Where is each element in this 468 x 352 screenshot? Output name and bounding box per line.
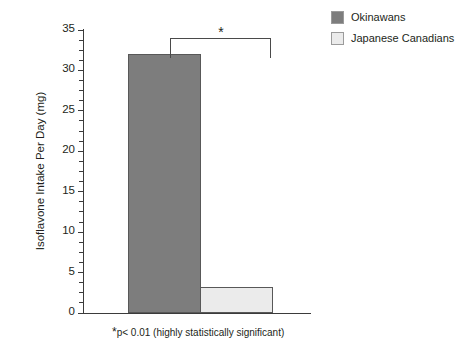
y-tick-major xyxy=(78,70,84,71)
y-tick-minor xyxy=(79,252,84,253)
y-tick-minor xyxy=(79,222,84,223)
y-tick-minor xyxy=(79,161,84,162)
y-tick-label: 30 xyxy=(41,62,75,74)
y-tick-minor xyxy=(79,80,84,81)
y-tick-minor xyxy=(79,181,84,182)
y-tick-minor xyxy=(79,262,84,263)
y-tick-major xyxy=(78,151,84,152)
y-tick-minor xyxy=(79,242,84,243)
significance-asterisk: * xyxy=(206,25,236,39)
y-tick-minor xyxy=(79,100,84,101)
bar-japanese-canadians xyxy=(200,287,273,313)
plot-area: 05101520253035 * xyxy=(0,0,468,352)
y-tick-minor xyxy=(79,171,84,172)
y-tick-major xyxy=(78,232,84,233)
y-tick-minor xyxy=(79,211,84,212)
y-tick-major xyxy=(78,272,84,273)
significance-bracket xyxy=(170,38,271,58)
y-tick-minor xyxy=(79,90,84,91)
y-tick-minor xyxy=(79,60,84,61)
y-tick-label: 5 xyxy=(41,265,75,277)
y-tick-minor xyxy=(79,141,84,142)
y-tick-label: 35 xyxy=(41,22,75,34)
y-tick-minor xyxy=(79,292,84,293)
bar-chart-figure: Okinawans Japanese Canadians Isoflavone … xyxy=(0,0,468,352)
y-tick-major xyxy=(78,191,84,192)
y-tick-label: 0 xyxy=(41,305,75,317)
y-tick-minor xyxy=(79,201,84,202)
y-tick-minor xyxy=(79,131,84,132)
y-tick-minor xyxy=(79,50,84,51)
bar-okinawans xyxy=(128,54,201,313)
x-axis-line xyxy=(83,313,311,314)
y-tick-minor xyxy=(79,302,84,303)
y-tick-label: 10 xyxy=(41,224,75,236)
y-tick-label: 15 xyxy=(41,184,75,196)
footnote: *p< 0.01 (highly statistically significa… xyxy=(112,327,284,338)
y-tick-minor xyxy=(79,282,84,283)
y-tick-label: 20 xyxy=(41,143,75,155)
y-tick-major xyxy=(78,30,84,31)
y-tick-minor xyxy=(79,120,84,121)
footnote-text: p< 0.01 (highly statistically significan… xyxy=(117,327,285,338)
y-tick-major xyxy=(78,313,84,314)
y-tick-minor xyxy=(79,40,84,41)
y-tick-major xyxy=(78,110,84,111)
y-tick-label: 25 xyxy=(41,103,75,115)
